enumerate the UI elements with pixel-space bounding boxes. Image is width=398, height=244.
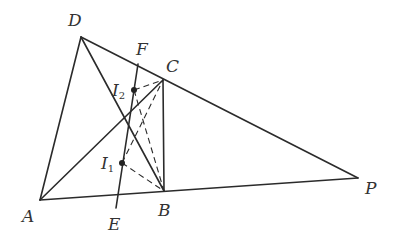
segment-DA — [40, 37, 81, 200]
segment-CB — [163, 80, 164, 191]
label-I1-sub: 1 — [108, 163, 114, 174]
label-P: P — [364, 178, 377, 198]
label-I1: I1 — [100, 153, 114, 174]
geometry-diagram: D F C I2 I1 A E B P — [0, 0, 398, 244]
label-B: B — [157, 200, 171, 220]
point-I1 — [119, 160, 125, 166]
label-D: D — [67, 10, 82, 30]
segment-DP — [81, 37, 358, 178]
label-E: E — [107, 214, 121, 234]
dashed-I1B — [122, 163, 164, 191]
label-A: A — [20, 206, 34, 226]
dashed-I2B — [134, 90, 164, 191]
segment-AC — [40, 80, 163, 200]
segment-AP — [40, 178, 358, 200]
label-I2-sub: 2 — [119, 90, 125, 101]
label-I2: I2 — [111, 80, 125, 101]
label-F: F — [135, 39, 149, 59]
point-I2 — [131, 87, 137, 93]
label-C: C — [166, 56, 179, 76]
